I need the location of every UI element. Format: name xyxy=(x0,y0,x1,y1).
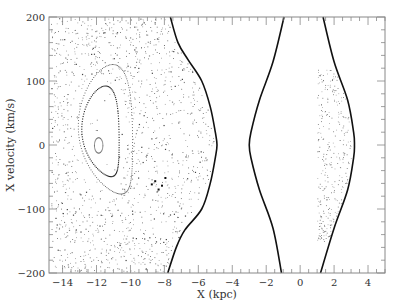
x-tick-label: 0 xyxy=(297,277,303,288)
scatter-points xyxy=(51,18,351,272)
x-tick-label: −6 xyxy=(191,277,206,288)
x-tick-label: −8 xyxy=(157,277,172,288)
boundary-middle-curve xyxy=(249,17,284,273)
y-tick-label: 100 xyxy=(26,76,45,87)
island-curves xyxy=(78,64,133,194)
x-tick-label: −14 xyxy=(52,277,73,288)
y-tick-label: −200 xyxy=(18,268,45,279)
boundary-curves xyxy=(168,17,355,273)
y-axis-label: X velocity (km/s) xyxy=(4,98,17,191)
x-tick-label: −2 xyxy=(259,277,274,288)
boundary-right-curve xyxy=(321,17,355,273)
x-tick-label: −10 xyxy=(120,277,141,288)
x-tick-label: 2 xyxy=(331,277,337,288)
y-tick-label: 0 xyxy=(39,140,45,151)
x-tick-label: −4 xyxy=(225,277,240,288)
phase-space-chart: −14−12−10−8−6−4−2024 −200−1000100200 X (… xyxy=(0,0,398,308)
boundary-left-curve xyxy=(168,17,217,273)
x-tick-label: −12 xyxy=(86,277,107,288)
y-tick-label: 200 xyxy=(26,12,45,23)
x-axis-label: X (kpc) xyxy=(197,288,237,301)
y-tick-label: −100 xyxy=(18,204,45,215)
x-axis-ticks: −14−12−10−8−6−4−2024 xyxy=(52,17,385,288)
x-tick-label: 4 xyxy=(365,277,371,288)
